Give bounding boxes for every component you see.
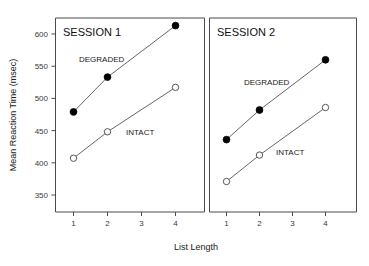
panel2-x-label-2: 2 bbox=[257, 219, 262, 228]
y-tick-label-600: 600 bbox=[35, 30, 49, 39]
panel2-x-label-4: 4 bbox=[323, 219, 328, 228]
panel1-intact-point-2 bbox=[104, 129, 110, 135]
y-tick-label-500: 500 bbox=[35, 94, 49, 103]
panel1-x-label-1: 1 bbox=[71, 219, 76, 228]
y-tick-label-550: 550 bbox=[35, 62, 49, 71]
panel1-degraded-point-3 bbox=[172, 22, 179, 29]
panel1-degraded-label: DEGRADED bbox=[79, 55, 125, 64]
panel2-degraded-point-3 bbox=[322, 56, 329, 63]
x-axis-title: List Length bbox=[174, 242, 218, 252]
y-axis-title: Mean Reaction Time (msec) bbox=[8, 59, 18, 172]
panel1-degraded-point-2 bbox=[104, 74, 111, 81]
y-tick-label-450: 450 bbox=[35, 127, 49, 136]
panel2-intact-point-2 bbox=[256, 152, 262, 158]
panel1-x-label-4: 4 bbox=[173, 219, 178, 228]
panel2-degraded-label: DEGRADED bbox=[244, 78, 290, 87]
panel1-x-label-2: 2 bbox=[105, 219, 110, 228]
panel2-intact-point-1 bbox=[223, 178, 229, 184]
panel2-intact-point-3 bbox=[322, 104, 328, 110]
panel1-x-label-3: 3 bbox=[139, 219, 144, 228]
panel1-intact-point-3 bbox=[172, 84, 178, 90]
reaction-time-chart: 600 550 500 450 400 350 Mean Reaction Ti… bbox=[0, 0, 369, 266]
panel1-title: SESSION 1 bbox=[63, 26, 121, 38]
panel1-intact-label: INTACT bbox=[126, 128, 154, 137]
panel1-intact-point-1 bbox=[70, 155, 76, 161]
panel1-degraded-point-1 bbox=[70, 109, 77, 116]
y-tick-label-400: 400 bbox=[35, 159, 49, 168]
panel2-degraded-point-1 bbox=[223, 136, 230, 143]
y-tick-label-350: 350 bbox=[35, 191, 49, 200]
panel2-x-label-3: 3 bbox=[290, 219, 295, 228]
panel2-title: SESSION 2 bbox=[217, 26, 275, 38]
panel2-intact-label: INTACT bbox=[276, 148, 304, 157]
panel2-x-label-1: 1 bbox=[224, 219, 229, 228]
panel2-degraded-point-2 bbox=[256, 107, 263, 114]
